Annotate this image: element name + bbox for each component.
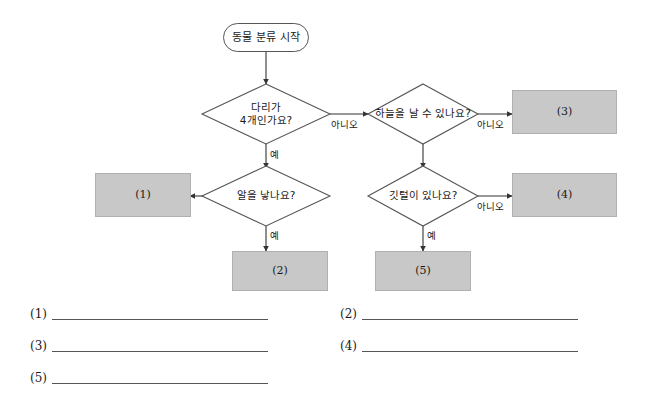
answer-line-4[interactable]	[362, 340, 578, 352]
edge-label-feathers-no: 아니오	[477, 199, 504, 213]
outcome-box-2: (2)	[232, 251, 328, 291]
outcome-box-1: (1)	[95, 173, 191, 217]
edge-label-eggs-yes: 예	[270, 228, 279, 242]
answer-number-5: (5)	[30, 372, 47, 384]
outcome-box-5-label: (5)	[415, 264, 431, 277]
edge-label-feathers-yes: 예	[427, 228, 436, 242]
answer-number-1: (1)	[30, 308, 47, 320]
start-node: 동물 분류 시작	[223, 23, 309, 52]
outcome-box-4: (4)	[512, 173, 617, 217]
answer-number-2: (2)	[340, 308, 357, 320]
answer-blanks-section: (1) (2) (3) (4) (5)	[0, 296, 646, 400]
edge-label-legs-yes: 예	[270, 147, 279, 161]
answer-row-5: (5)	[30, 372, 268, 384]
answer-row-1: (1)	[30, 308, 268, 320]
decision-shape-feathers	[368, 166, 478, 226]
outcome-box-3: (3)	[512, 90, 617, 134]
outcome-box-4-label: (4)	[557, 188, 573, 201]
outcome-box-5: (5)	[375, 251, 471, 291]
start-node-label: 동물 분류 시작	[232, 31, 301, 44]
outcome-box-3-label: (3)	[557, 105, 573, 118]
decision-shape-fly	[368, 84, 478, 144]
answer-line-5[interactable]	[52, 372, 268, 384]
answer-line-1[interactable]	[52, 308, 268, 320]
decision-shape-eggs	[202, 166, 330, 226]
answer-row-3: (3)	[30, 340, 268, 352]
answer-line-3[interactable]	[52, 340, 268, 352]
edge-label-fly-no: 아니오	[477, 117, 504, 131]
decision-shape-legs	[202, 84, 330, 144]
worksheet-page: 동물 분류 시작 다리가 4개인가요? 하늘을 날 수 있나요? 알을 낳나요?…	[0, 0, 646, 400]
answer-number-4: (4)	[340, 340, 357, 352]
answer-line-2[interactable]	[362, 308, 578, 320]
flowchart-diagram: 동물 분류 시작 다리가 4개인가요? 하늘을 날 수 있나요? 알을 낳나요?…	[0, 0, 646, 296]
answer-row-4: (4)	[340, 340, 578, 352]
answer-row-2: (2)	[340, 308, 578, 320]
answer-number-3: (3)	[30, 340, 47, 352]
edge-label-legs-no: 아니오	[331, 117, 358, 131]
outcome-box-2-label: (2)	[272, 264, 288, 277]
outcome-box-1-label: (1)	[135, 188, 151, 201]
